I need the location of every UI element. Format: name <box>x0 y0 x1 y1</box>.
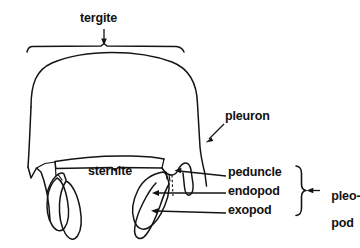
label-pleopod-line2: pod <box>331 216 353 230</box>
left-segment-notch <box>28 162 55 220</box>
exopod-leader-arrow <box>151 208 226 214</box>
peduncle-leader-arrow <box>175 168 227 176</box>
pleopod-brace <box>296 166 306 216</box>
label-pleopod: pleo- pod <box>318 176 360 244</box>
label-pleopod-line1: pleo- <box>331 189 360 203</box>
label-exopod: exopod <box>228 204 272 218</box>
tergite-bracket <box>27 44 184 53</box>
right-pleopod-endopod <box>133 172 169 229</box>
tergite-leader-arrow <box>101 29 107 46</box>
label-peduncle: peduncle <box>228 166 282 180</box>
left-pleopod-endopod <box>47 178 68 231</box>
label-sternite: sternite <box>88 165 132 179</box>
label-tergite: tergite <box>80 12 117 26</box>
diagram-canvas <box>0 0 360 248</box>
label-endopod: endopod <box>228 185 280 199</box>
pleuron-left-wall <box>28 107 31 167</box>
pleuron-leader-arrow <box>206 124 224 142</box>
label-pleuron: pleuron <box>225 110 270 124</box>
right-pleopod-peduncle <box>162 163 193 196</box>
figure-root: tergite pleuron sternite peduncle endopo… <box>0 0 360 248</box>
